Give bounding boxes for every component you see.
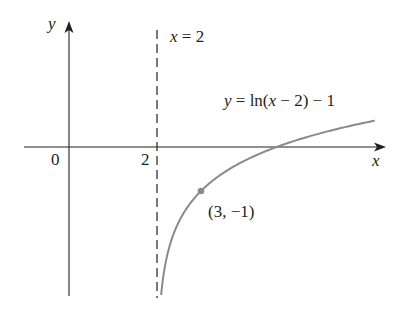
origin-label: 0 (51, 151, 60, 168)
graph-canvas (0, 0, 400, 318)
point-3-neg1 (198, 188, 205, 195)
asymptote-label: x = 2 (170, 28, 204, 45)
tick-label-2: 2 (141, 151, 150, 168)
y-axis-label: y (48, 15, 56, 32)
point-label: (3, −1) (208, 203, 254, 220)
curve-label: y = ln(x − 2) − 1 (224, 92, 335, 109)
graph-figure: y x 0 2 x = 2 y = ln(x − 2) − 1 (3, −1) (0, 0, 400, 318)
x-axis-label: x (372, 152, 380, 169)
